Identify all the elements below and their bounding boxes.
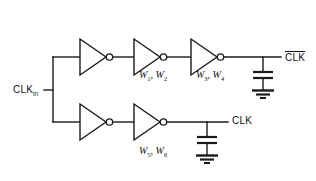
- input-port-text: CLK: [13, 84, 33, 95]
- w-subscript: 6: [164, 151, 167, 158]
- load-capacitor-bottom: [197, 122, 217, 155]
- inverter-bubble-icon: [160, 54, 166, 60]
- w-symbol: W: [156, 145, 164, 156]
- output-top-text: CLK: [285, 51, 305, 63]
- output-bottom-label: CLK: [232, 116, 252, 126]
- inverter-triangle-icon: [80, 104, 106, 140]
- inverter-bubble-icon: [106, 119, 112, 125]
- width-label-bottom: W5, W6: [139, 146, 167, 159]
- load-capacitor-top: [253, 57, 273, 90]
- output-bottom-text: CLK: [232, 115, 252, 126]
- inverter-bubble-icon: [160, 119, 166, 125]
- w-subscript: 2: [164, 75, 167, 82]
- width-label-top-second: W3, W4: [196, 70, 224, 83]
- w-subscript: 4: [221, 75, 224, 82]
- width-label-top-first: W1, W2: [139, 70, 167, 83]
- top-branch: [80, 39, 281, 98]
- w-symbol: W: [213, 69, 221, 80]
- inverter-triangle-icon: [80, 39, 106, 75]
- inverter-top-1[interactable]: [80, 39, 113, 75]
- w-symbol: W: [156, 69, 164, 80]
- circuit-diagram: CLKin CLK CLK W1, W2 W3, W4 W5, W6: [0, 0, 316, 181]
- ground-bottom: [196, 156, 218, 164]
- inverter-bottom-1[interactable]: [80, 104, 113, 140]
- inverter-triangle-icon: [134, 104, 160, 140]
- inverter-bubble-icon: [217, 54, 223, 60]
- inverter-bubble-icon: [106, 54, 112, 60]
- output-top-label: CLK: [285, 51, 305, 63]
- input-net: [44, 57, 80, 122]
- ground-top: [252, 91, 274, 99]
- inverter-bottom-2[interactable]: [134, 104, 167, 140]
- input-port-subscript: in: [33, 90, 38, 97]
- input-port-label: CLKin: [13, 85, 38, 98]
